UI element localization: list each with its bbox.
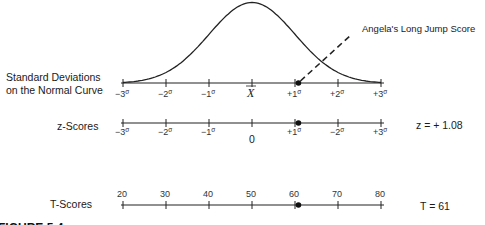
t-tick-label: 70 (332, 189, 342, 199)
figure-caption: FIGURE 5.4 (0, 221, 64, 225)
normal-curve-figure: Standard Deviations on the Normal Curve … (0, 0, 485, 225)
sigma-symbol: σ (211, 126, 215, 133)
sd-tick-label: −2σ (158, 88, 172, 99)
sd-tick-label: +3σ (373, 88, 387, 99)
t-tick-label: 80 (375, 189, 385, 199)
sigma-symbol: σ (211, 88, 215, 95)
t-tick-label: 60 (289, 189, 299, 199)
normal-curve (123, 3, 381, 83)
sd-tick-value: +1 (287, 89, 297, 99)
t-tick-label: 20 (117, 189, 127, 199)
z-tick-label: −1σ (201, 126, 215, 137)
z-tick-value: +1 (287, 127, 297, 137)
z-tick-label: −3σ (115, 126, 129, 137)
z-tick-label: +1σ (287, 126, 301, 137)
sd-tick-label: −1σ (201, 88, 215, 99)
score-marker-sd (296, 80, 302, 86)
annotation-pointer-line (300, 34, 352, 81)
z-tick-label: −2σ (330, 126, 344, 137)
z-tick-label: +3σ (373, 126, 387, 137)
sd-tick-value: −2 (158, 89, 168, 99)
sd-tick-label: −3σ (115, 88, 129, 99)
sigma-symbol: σ (125, 126, 129, 133)
t-tick-label: 50 (246, 189, 256, 199)
t-ticks: 20304050607080 (117, 189, 385, 209)
score-marker-t (296, 202, 302, 208)
t-tick-label: 40 (203, 189, 213, 199)
sigma-symbol: σ (340, 126, 344, 133)
sigma-symbol: σ (383, 88, 387, 95)
annotation-label: Angela's Long Jump Score (362, 23, 475, 34)
sigma-symbol: σ (297, 126, 301, 133)
z-tick-value: −2 (330, 127, 340, 137)
t-value-text: T = 61 (420, 200, 450, 212)
sigma-symbol: σ (168, 88, 172, 95)
z-tick-value: −3 (115, 127, 125, 137)
z-row-label: z-Scores (57, 120, 98, 132)
sd-row-label-line1: Standard Deviations (6, 71, 101, 83)
sigma-symbol: σ (297, 88, 301, 95)
sd-tick-label: +2σ (330, 88, 344, 99)
sd-tick-value: +3 (373, 89, 383, 99)
mean-xbar-label: X (246, 86, 255, 100)
sigma-symbol: σ (383, 126, 387, 133)
sd-tick-value: +2 (330, 89, 340, 99)
sd-tick-label: +1σ (287, 88, 301, 99)
sd-tick-value: −1 (201, 89, 211, 99)
z-value-text: z = + 1.08 (416, 119, 463, 131)
z-tick-value: +3 (373, 127, 383, 137)
z-zero-label: 0 (249, 133, 255, 145)
sd-tick-value: −3 (115, 89, 125, 99)
t-tick-label: 30 (160, 189, 170, 199)
sigma-symbol: σ (125, 88, 129, 95)
z-tick-value: −2 (158, 127, 168, 137)
z-tick-label: −2σ (158, 126, 172, 137)
sigma-symbol: σ (340, 88, 344, 95)
score-marker-z (296, 120, 302, 126)
sd-row-label-line2: on the Normal Curve (6, 84, 103, 96)
sigma-symbol: σ (168, 126, 172, 133)
t-row-label: T-Scores (50, 198, 92, 210)
z-tick-value: −1 (201, 127, 211, 137)
